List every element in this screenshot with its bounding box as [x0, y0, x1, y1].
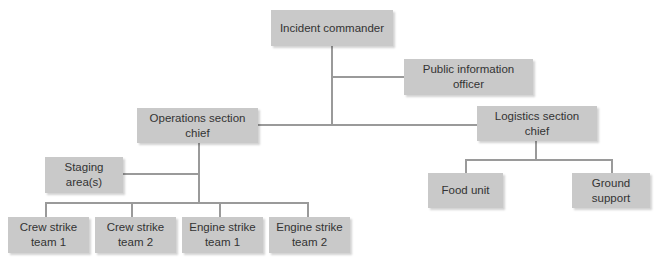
connector-ic-pio	[332, 76, 404, 78]
node-label: Engine strike team 2	[276, 220, 342, 250]
node-label: Engine strike team 1	[189, 220, 255, 250]
connector-team-3	[219, 202, 221, 217]
node-food-unit: Food unit	[428, 173, 503, 208]
node-operations-section-chief: Operations section chief	[137, 108, 258, 143]
node-label: Crew strike team 1	[20, 220, 78, 250]
node-label: Logistics section chief	[495, 109, 579, 139]
node-ground-support: Ground support	[572, 173, 650, 208]
node-engine-strike-team-2: Engine strike team 2	[269, 217, 350, 253]
node-label: Food unit	[442, 183, 490, 198]
connector-team-2	[131, 202, 133, 217]
node-crew-strike-team-1: Crew strike team 1	[8, 217, 89, 253]
node-logistics-section-chief: Logistics section chief	[477, 106, 597, 141]
node-engine-strike-team-1: Engine strike team 1	[182, 217, 263, 253]
connector-ops-logistics	[258, 124, 477, 126]
node-label: Staging area(s)	[64, 160, 103, 190]
connector-ground-support	[611, 159, 613, 173]
node-label: Crew strike team 2	[107, 220, 165, 250]
connector-ic-vertical	[331, 46, 333, 126]
node-staging-areas: Staging area(s)	[45, 157, 123, 193]
node-label: Ground support	[592, 176, 630, 206]
node-label: Incident commander	[280, 21, 384, 36]
connector-logistics-horizontal	[465, 159, 613, 161]
connector-food-unit	[465, 159, 467, 173]
node-crew-strike-team-2: Crew strike team 2	[95, 217, 176, 253]
connector-logistics-vertical	[535, 141, 537, 161]
node-label: Public information officer	[423, 62, 514, 92]
node-incident-commander: Incident commander	[271, 10, 393, 46]
node-label: Operations section chief	[150, 111, 246, 141]
node-public-information-officer: Public information officer	[404, 59, 533, 95]
connector-team-4	[307, 202, 309, 217]
connector-team-1	[45, 202, 47, 217]
connector-teams-horizontal	[45, 202, 309, 204]
connector-ops-staging	[123, 173, 199, 175]
